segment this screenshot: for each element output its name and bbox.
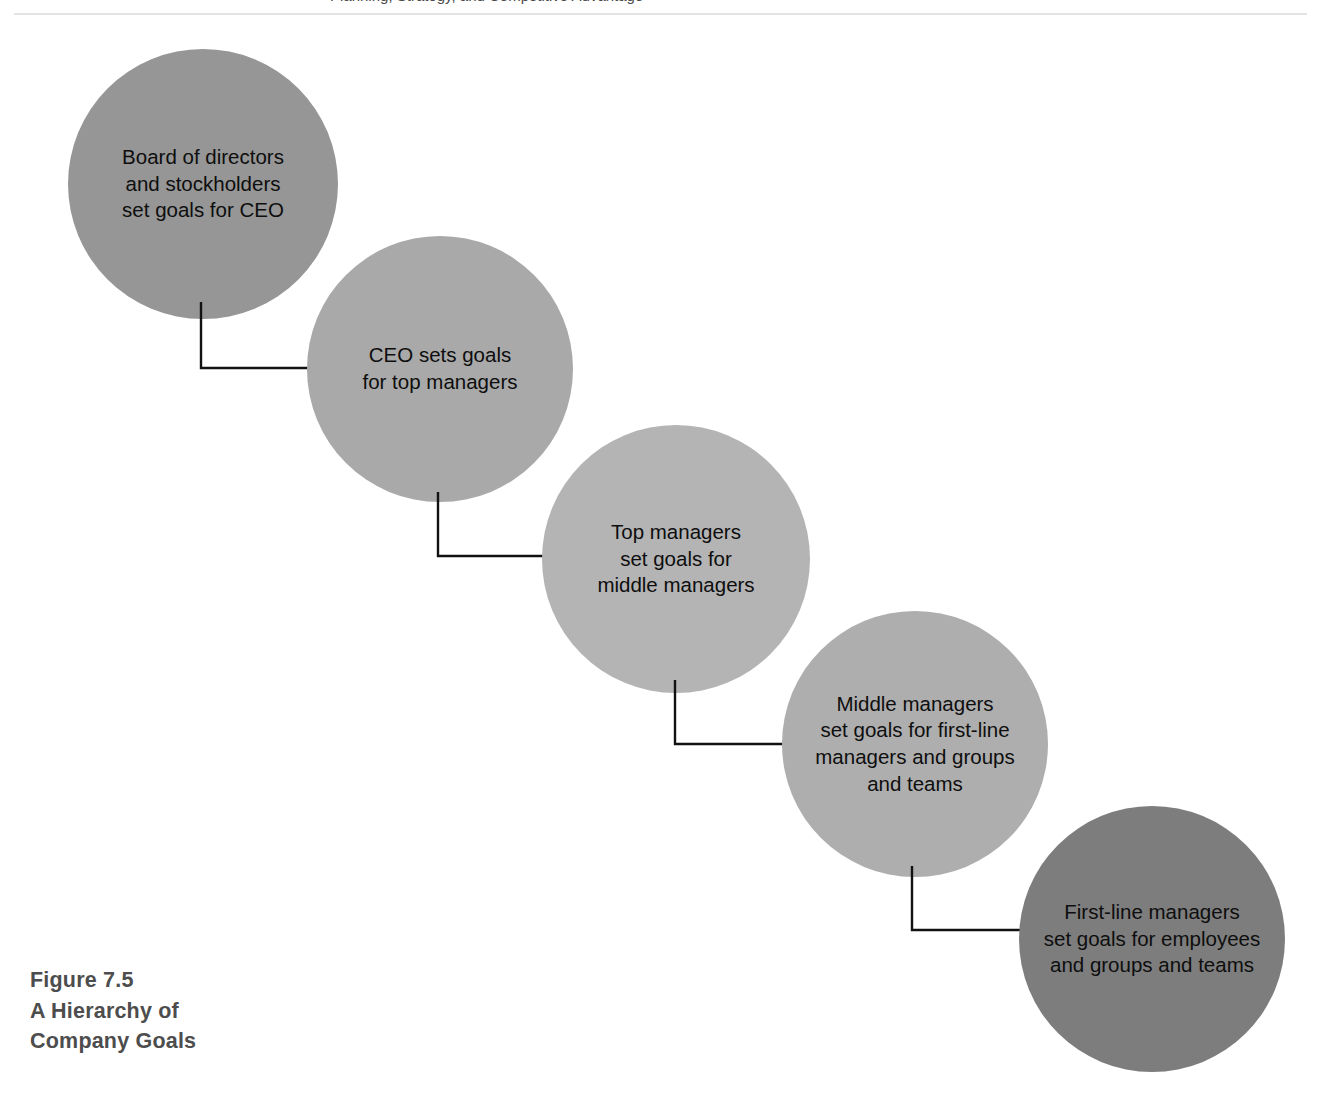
running-head: Planning, Strategy, and Competitive Adva… [0,0,1321,12]
figure-title-line-1: A Hierarchy of [30,996,360,1027]
running-head-text: Planning, Strategy, and Competitive Adva… [330,0,643,4]
node-middle-managers-label: Middle managers set goals for first-line… [807,691,1022,798]
node-ceo-label: CEO sets goals for top managers [355,342,526,395]
node-top-managers-label: Top managers set goals for middle manage… [589,519,762,599]
figure-page: Planning, Strategy, and Competitive Adva… [0,0,1321,1119]
figure-title-line-2: Company Goals [30,1026,360,1057]
header-rule [14,13,1307,15]
node-first-line-managers-label: First-line managers set goals for employ… [1036,899,1269,979]
node-top-managers: Top managers set goals for middle manage… [542,425,810,693]
node-board-of-directors: Board of directors and stockholders set … [68,49,338,319]
node-board-of-directors-label: Board of directors and stockholders set … [114,144,292,224]
node-ceo: CEO sets goals for top managers [307,236,573,502]
figure-number: Figure 7.5 [30,965,360,996]
node-middle-managers: Middle managers set goals for first-line… [782,611,1048,877]
node-first-line-managers: First-line managers set goals for employ… [1019,806,1285,1072]
figure-caption: Figure 7.5 A Hierarchy of Company Goals [30,965,360,1057]
